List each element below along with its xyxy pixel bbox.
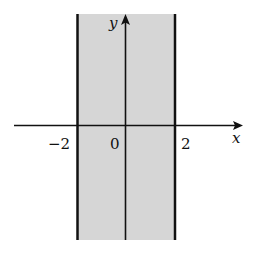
tick-label-origin: 0 <box>110 135 120 153</box>
tick-label-neg2: −2 <box>48 135 70 153</box>
tick-label-2: 2 <box>181 135 191 153</box>
strip-region-diagram: y x −2 0 2 <box>0 0 258 256</box>
y-axis-label: y <box>108 14 118 32</box>
x-axis-label: x <box>232 129 241 147</box>
